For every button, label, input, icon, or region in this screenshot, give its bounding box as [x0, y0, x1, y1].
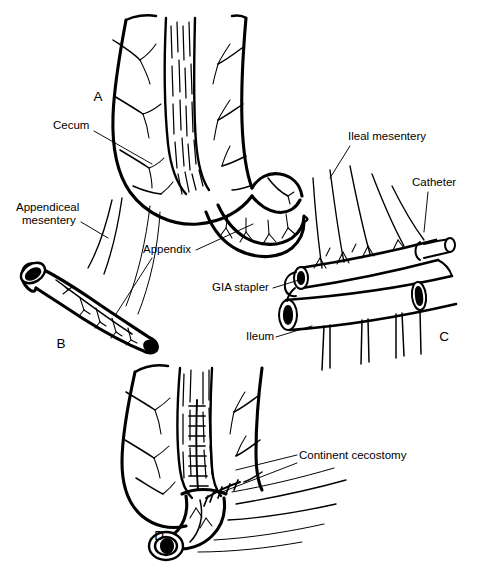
label-gia-stapler: GIA stapler [212, 281, 269, 293]
figure-canvas: Cecum Appendiceal mesentery Appendix Ile… [0, 0, 500, 583]
panel-letter-d: D [154, 528, 164, 543]
ileum-proximal-lumen [284, 306, 292, 324]
panel-letter-c: C [439, 329, 449, 344]
panel-letter-b: B [56, 336, 65, 351]
label-appendix: Appendix [143, 243, 191, 255]
label-appendiceal-mesentery-line1: Appendiceal [16, 201, 79, 213]
label-ileum: Ileum [246, 330, 274, 342]
surgical-figure: Cecum Appendiceal mesentery Appendix Ile… [0, 0, 500, 583]
label-catheter: Catheter [412, 176, 456, 188]
catheter-tip-rim [445, 238, 455, 252]
ileum-stoma-lumen [415, 287, 423, 306]
label-cecum: Cecum [53, 119, 89, 131]
ileal-conduit-proximal-lumen [298, 272, 304, 284]
panel-letter-a: A [93, 89, 102, 104]
label-continent-cecostomy: Continent cecostomy [299, 449, 407, 461]
label-ileal-mesentery: Ileal mesentery [348, 130, 426, 142]
label-appendiceal-mesentery-line2: mesentery [22, 214, 76, 226]
